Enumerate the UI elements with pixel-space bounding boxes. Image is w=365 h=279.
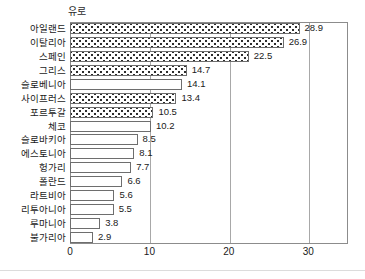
bar-value-label: 14.7 (192, 63, 211, 76)
bar[interactable] (70, 134, 138, 145)
chart-title: 유로 (68, 6, 86, 18)
category-label: 루마니아 (0, 217, 66, 230)
bar-value-label: 6.6 (127, 174, 140, 187)
x-tick-label: 10 (144, 245, 155, 259)
category-label: 불가리아 (0, 231, 66, 244)
bar-row: 14.1 (70, 78, 348, 91)
x-tick-label: 20 (223, 245, 234, 259)
bar-row: 5.6 (70, 189, 348, 202)
category-axis-labels: 아일랜드이탈리아스페인그리스슬로베니아사이프러스포르투갈체코슬로바키아에스토니아… (0, 22, 66, 244)
category-label: 아일랜드 (0, 22, 66, 35)
bar-row: 14.7 (70, 64, 348, 77)
bar[interactable] (70, 162, 131, 173)
category-label: 포르투갈 (0, 106, 66, 119)
bar-value-label: 3.8 (105, 216, 118, 229)
bar-row: 26.9 (70, 36, 348, 49)
bar-row: 8.5 (70, 133, 348, 146)
bar-value-label: 10.2 (156, 119, 175, 132)
category-label: 슬로바키아 (0, 133, 66, 146)
category-label: 헝가리 (0, 161, 66, 174)
bar[interactable] (70, 190, 114, 201)
bar-value-label: 10.5 (158, 105, 177, 118)
bar[interactable] (70, 176, 122, 187)
bar[interactable] (70, 121, 151, 132)
bar-value-label: 26.9 (289, 35, 308, 48)
bar-chart: 유로 아일랜드이탈리아스페인그리스슬로베니아사이프러스포르투갈체코슬로바키아에스… (0, 0, 365, 279)
x-tick-label: 30 (303, 245, 314, 259)
bar-row: 10.2 (70, 120, 348, 133)
bar-row: 10.5 (70, 106, 348, 119)
bar[interactable] (70, 232, 93, 243)
bar-value-label: 8.1 (139, 146, 152, 159)
bar-row: 8.1 (70, 147, 348, 160)
bar-row: 2.9 (70, 231, 348, 244)
bar-value-label: 2.9 (98, 230, 111, 243)
category-label: 스페인 (0, 50, 66, 63)
category-label: 폴란드 (0, 175, 66, 188)
bar-row: 7.7 (70, 161, 348, 174)
bottom-divider (0, 270, 365, 271)
bar-value-label: 13.4 (181, 91, 200, 104)
bar-value-label: 22.5 (254, 49, 273, 62)
bar-row: 6.6 (70, 175, 348, 188)
bar[interactable] (70, 79, 182, 90)
bar-value-label: 7.7 (136, 160, 149, 173)
bar[interactable] (70, 37, 284, 48)
bar[interactable] (70, 148, 134, 159)
category-label: 체코 (0, 120, 66, 133)
category-label: 리투아니아 (0, 203, 66, 216)
category-label: 이탈리아 (0, 36, 66, 49)
bar-row: 13.4 (70, 92, 348, 105)
bar-value-label: 28.9 (305, 21, 324, 34)
bar-value-label: 5.6 (119, 188, 132, 201)
bars-container: 28.926.922.514.714.113.410.510.28.58.17.… (70, 22, 348, 244)
bar[interactable] (70, 23, 300, 34)
bar-row: 3.8 (70, 217, 348, 230)
bar[interactable] (70, 93, 176, 104)
category-label: 그리스 (0, 64, 66, 77)
bar-value-label: 14.1 (187, 77, 206, 90)
bar-row: 5.5 (70, 203, 348, 216)
x-tick-label: 0 (67, 245, 73, 259)
category-label: 사이프러스 (0, 92, 66, 105)
category-label: 에스토니아 (0, 147, 66, 160)
bar[interactable] (70, 107, 153, 118)
x-axis-tick-labels: 0102030 (70, 245, 348, 261)
bar-value-label: 5.5 (119, 202, 132, 215)
bar-row: 28.9 (70, 22, 348, 35)
bar[interactable] (70, 204, 114, 215)
category-label: 라트비아 (0, 189, 66, 202)
category-label: 슬로베니아 (0, 78, 66, 91)
bar[interactable] (70, 218, 100, 229)
bar[interactable] (70, 51, 249, 62)
bar[interactable] (70, 65, 187, 76)
bar-value-label: 8.5 (143, 132, 156, 145)
bar-row: 22.5 (70, 50, 348, 63)
